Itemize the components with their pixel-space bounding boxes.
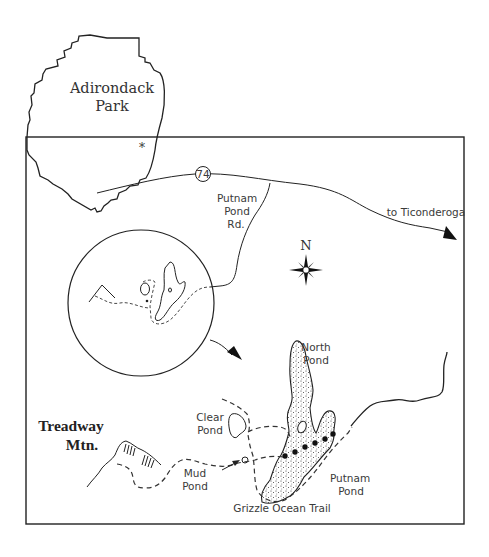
route-number: 74 xyxy=(196,168,210,180)
north-label: N xyxy=(300,238,311,253)
mud-pond-label-line2: Pond xyxy=(182,480,208,492)
north-pond-label-line2: Pond xyxy=(303,354,329,366)
mountain-label-line2: Mtn. xyxy=(66,436,98,453)
clear-pond-label-line2: Pond xyxy=(197,424,223,436)
mountain-label-line1: Treadway xyxy=(38,417,104,434)
location-star-icon: * xyxy=(139,141,145,155)
side-road-label-line3: Rd. xyxy=(227,218,244,230)
putnam-pond-label-line2: Pond xyxy=(338,485,364,497)
side-road-label-line1: Putnam xyxy=(217,192,257,204)
park-label-line2: Park xyxy=(95,98,129,114)
trail-name-label: Grizzle Ocean Trail xyxy=(233,502,331,514)
destination-label: to Ticonderoga xyxy=(387,206,465,218)
park-label-line1: Adirondack xyxy=(69,80,154,96)
trail-map: Adirondack Park * 74 Putnam Pond Rd. to … xyxy=(0,0,489,557)
putnam-pond-label-line1: Putnam xyxy=(330,472,370,484)
mud-pond-label-line1: Mud xyxy=(184,467,206,479)
clear-pond-label-line1: Clear xyxy=(196,411,224,423)
north-pond-label-line1: North xyxy=(301,341,330,353)
side-road-label-line2: Pond xyxy=(224,205,250,217)
